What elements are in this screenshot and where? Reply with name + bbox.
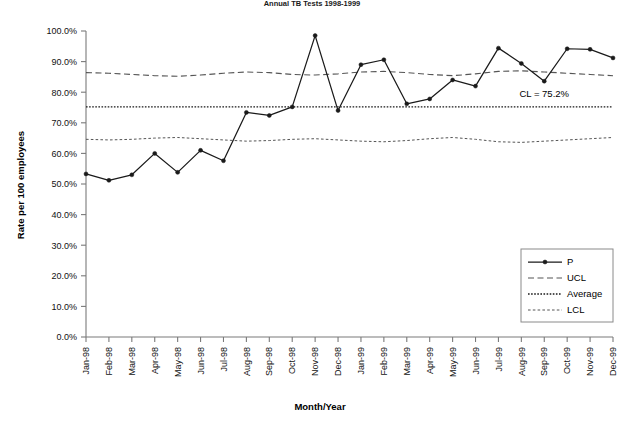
- data-point-marker: [451, 78, 455, 82]
- x-tick-label: Dec-98: [333, 347, 343, 376]
- y-tick-label: 100.0%: [46, 26, 77, 36]
- x-tick-label: Nov-99: [585, 347, 595, 376]
- data-point-marker: [428, 97, 432, 101]
- chart-title: Annual TB Tests 1998-1999: [264, 0, 361, 8]
- x-tick-label: Mar-98: [127, 347, 137, 376]
- cl-annotation-label: CL = 75.2%: [519, 88, 569, 99]
- data-point-marker: [290, 105, 294, 109]
- x-tick-label: Jul-98: [219, 347, 229, 372]
- data-point-marker: [267, 113, 271, 117]
- x-tick-label: May-98: [173, 347, 183, 377]
- data-point-marker: [244, 110, 248, 114]
- data-point-marker: [611, 56, 615, 60]
- x-tick-label: Nov-98: [310, 347, 320, 376]
- legend-marker-p: [543, 260, 547, 264]
- annotation-group: CL = 75.2%: [519, 88, 569, 99]
- series-line-lcl: [86, 137, 613, 142]
- data-point-marker: [84, 172, 88, 176]
- data-point-marker: [474, 84, 478, 88]
- legend-label-lcl: LCL: [567, 304, 584, 315]
- x-tick-label: Sep-98: [265, 347, 275, 376]
- x-tick-label: Jun-98: [196, 347, 206, 375]
- y-tick-label: 70.0%: [51, 118, 77, 128]
- y-axis: 0.0%10.0%20.0%30.0%40.0%50.0%60.0%70.0%8…: [46, 26, 86, 342]
- y-tick-label: 90.0%: [51, 57, 77, 67]
- y-tick-label: 50.0%: [51, 179, 77, 189]
- x-tick-label: Jun-99: [471, 347, 481, 375]
- data-series-group: [84, 34, 615, 183]
- control-chart: Annual TB Tests 1998-1999 Rate per 100 e…: [0, 0, 625, 421]
- data-point-marker: [588, 47, 592, 51]
- data-point-marker: [221, 159, 225, 163]
- x-tick-label: Aug-98: [242, 347, 252, 376]
- y-tick-label: 10.0%: [51, 302, 77, 312]
- data-point-marker: [199, 148, 203, 152]
- x-tick-label: Feb-98: [104, 347, 114, 376]
- data-point-marker: [382, 58, 386, 62]
- x-tick-label: Sep-99: [539, 347, 549, 376]
- legend-label-ucl: UCL: [567, 272, 586, 283]
- series-line-p: [86, 36, 613, 181]
- y-axis-title: Rate per 100 employees: [15, 131, 26, 239]
- data-point-marker: [496, 46, 500, 50]
- y-tick-label: 40.0%: [51, 210, 77, 220]
- x-tick-label: May-99: [448, 347, 458, 377]
- x-tick-label: Jan-98: [81, 347, 91, 375]
- data-point-marker: [153, 151, 157, 155]
- chart-legend: PUCLAverageLCL: [521, 249, 613, 322]
- y-tick-label: 20.0%: [51, 271, 77, 281]
- data-point-marker: [565, 47, 569, 51]
- x-tick-label: Apr-98: [150, 347, 160, 374]
- data-point-marker: [336, 109, 340, 113]
- x-tick-label: Feb-99: [379, 347, 389, 376]
- data-point-marker: [176, 170, 180, 174]
- x-axis: Jan-98Feb-98Mar-98Apr-98May-98Jun-98Jul-…: [81, 337, 618, 377]
- x-tick-label: Jan-99: [356, 347, 366, 375]
- data-point-marker: [405, 102, 409, 106]
- x-tick-label: Aug-99: [517, 347, 527, 376]
- y-tick-label: 80.0%: [51, 88, 77, 98]
- data-point-marker: [313, 34, 317, 38]
- data-point-marker: [359, 63, 363, 67]
- y-tick-label: 0.0%: [56, 332, 77, 342]
- x-tick-label: Oct-99: [562, 347, 572, 374]
- legend-label-p: P: [567, 256, 573, 267]
- x-tick-label: Apr-99: [425, 347, 435, 374]
- y-tick-label: 60.0%: [51, 149, 77, 159]
- chart-container: Annual TB Tests 1998-1999 Rate per 100 e…: [0, 0, 625, 421]
- x-tick-label: Mar-99: [402, 347, 412, 376]
- data-point-marker: [107, 178, 111, 182]
- x-axis-title: Month/Year: [294, 401, 346, 412]
- data-point-marker: [519, 61, 523, 65]
- data-point-marker: [130, 173, 134, 177]
- legend-label-average: Average: [567, 288, 602, 299]
- x-tick-label: Oct-98: [287, 347, 297, 374]
- x-tick-label: Jul-99: [494, 347, 504, 372]
- x-tick-label: Dec-99: [608, 347, 618, 376]
- data-point-marker: [542, 79, 546, 83]
- y-tick-label: 30.0%: [51, 241, 77, 251]
